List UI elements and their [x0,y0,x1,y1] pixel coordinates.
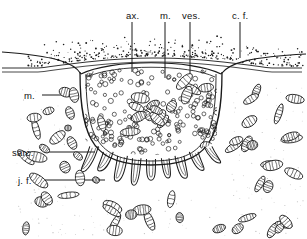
mitochondrion-sarcoplasm [42,106,55,116]
mitochondrion-sarcoplasm [242,92,260,107]
mitochondrion-sarcoplasm [22,221,30,235]
mitochondrion-sarcoplasm [125,209,137,219]
mitochondrion-sarcoplasm [65,135,79,151]
mitochondrion-sarcoplasm [92,176,101,184]
junctional-fold [204,146,221,163]
mitochondrion-sarcoplasm [106,225,122,237]
mitochondrion-sarcoplasm [262,159,284,173]
mitochondrion-sarcoplasm [238,212,257,224]
mitochondrion-sarcoplasm [283,166,304,182]
label-cf: c. f. [232,10,248,21]
junctional-fold [81,146,98,172]
junctional-fold-lumen [149,161,153,178]
label-ax: ax. [126,10,139,21]
junctional-fold [161,158,170,178]
label-m-top: m. [160,10,171,21]
figure-canvas: ax. m. ves. c. f. m. sarc. j. f. [0,0,307,239]
axon-terminal-contents [82,68,218,160]
junctional-fold [131,158,141,185]
mitochondrion-sarcoplasm [240,113,259,130]
mitochondrion-sarcoplasm [27,112,42,122]
mitochondrion-sarcoplasm [272,103,285,125]
label-jf: j. f. [18,175,32,186]
nerve-sheath-left [2,52,81,74]
mitochondrion-sarcoplasm [58,160,72,175]
mitochondrion-terminal [120,127,141,136]
label-ves: ves. [182,10,200,21]
mitochondrion-sarcoplasm [230,222,245,236]
mitochondrion-sarcoplasm [176,212,184,223]
mitochondrion-terminal [198,82,214,92]
mitochondrion-sarcoplasm [65,125,72,131]
mitochondrion-sarcoplasm [75,170,86,186]
mitochondrion-sarcoplasm [64,106,76,121]
label-m-left: m. [24,90,35,101]
neuromuscular-junction-drawing [0,0,307,239]
mitochondrion-sarcoplasm [58,191,80,199]
mitochondrion-sarcoplasm [212,223,227,235]
label-sarc: sarc. [12,147,34,158]
mitochondrion-sarcoplasm [285,93,305,105]
mitochondrion-sarcoplasm [166,190,176,208]
